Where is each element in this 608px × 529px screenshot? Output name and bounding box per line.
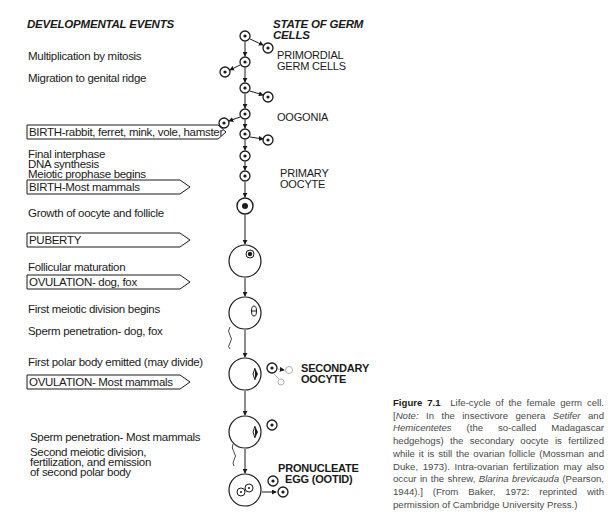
event-text: Migration to genital ridge [28,72,146,85]
event-text: First meiotic division begins [28,303,160,316]
milestone-label: PUBERTY [29,233,81,247]
milestone-label: OVULATION- Most mammals [29,375,173,389]
arrow [230,65,240,70]
figure-caption: Figure 7.1 Life-cycle of the female germ… [393,397,604,511]
stage-label: OOGONIA [277,112,328,123]
arrow [250,91,263,95]
caption-genus: Setifer [553,410,581,421]
germ-cell [240,57,250,67]
germ-cell [240,31,250,41]
figure-title: Life-cycle of the female germ cell. [450,397,604,408]
milestone-label: OVULATION- dog, fox [29,275,137,289]
germ-cell [240,83,250,93]
germ-cell [263,135,273,145]
caption-species: Blarina brevicauda [479,473,559,484]
event-text: Sperm penetration- dog, fox [28,325,162,338]
sperm-icon [232,444,235,466]
caption-text: and [581,410,604,421]
germ-state-header-line2: CELLS [273,30,310,41]
stage-label: OOCYTE [301,374,346,385]
caption-text: In the insectivore genera [419,410,553,421]
growing-oocyte-cell [237,198,253,214]
stage-label: GERM CELLS [277,61,346,72]
germ-cell [240,109,250,119]
event-text: Sperm penetration- Most mammals [30,431,200,444]
pronucleate-egg-cell [229,474,288,506]
developmental-events-header: DEVELOPMENTAL EVENTS [27,19,174,30]
sperm-icon [229,327,232,349]
secondary-oocyte-cell [229,358,293,390]
stage-label: OOCYTE [280,179,325,190]
germ-cell [240,151,250,161]
stage-label: EGG (OOTID) [285,474,352,485]
caption-note-label: Note: [396,410,419,421]
germ-cell [263,92,273,102]
divided-polar-body-a [286,367,293,374]
event-text: Follicular maturation [28,261,125,274]
caption-genus: Hemicentetes [393,422,452,433]
event-text: of second polar body [30,466,131,479]
divided-polar-body-b [278,379,284,385]
figure-label: Figure 7.1 [393,397,441,408]
arrow [250,137,263,139]
milestone-label: BIRTH-Most mammals [29,180,140,194]
germ-cell [263,43,273,53]
arrow [250,39,263,45]
mature-oocyte-cell [229,245,261,277]
event-text: First polar body emitted (may divide) [28,356,203,369]
penetrated-oocyte-cell [229,416,277,466]
milestone-label: BIRTH-rabbit, ferret, mink, vole, hamste… [29,125,223,139]
event-text: Growth of oocyte and follicle [28,207,164,220]
arrow [229,117,240,121]
germ-cell [220,67,230,77]
event-text: Multiplication by mitosis [28,50,141,63]
germ-cell [240,129,250,139]
germ-cell [240,171,250,181]
